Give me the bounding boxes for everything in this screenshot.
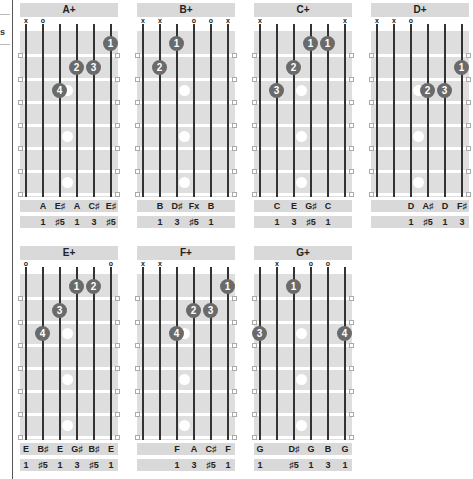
- note-name: C: [269, 200, 285, 212]
- fret-line: [254, 147, 352, 150]
- fret-edge-tick: [252, 435, 257, 440]
- fret-edge-tick: [135, 435, 140, 440]
- fret-edge-tick: [252, 53, 257, 58]
- note-name: B: [203, 200, 219, 212]
- fret-edge-tick: [18, 296, 23, 301]
- fret-inlay-dot: [296, 131, 307, 142]
- fret-edge-tick: [115, 435, 120, 440]
- fret-line: [137, 413, 235, 416]
- fret-edge-tick: [18, 77, 23, 82]
- fret-inlay-dot: [179, 177, 190, 188]
- fret-line: [371, 101, 469, 104]
- interval-label: 1: [303, 459, 319, 471]
- chord-title: E+: [20, 246, 118, 260]
- muted-string-marker: x: [340, 17, 350, 24]
- fret-edge-tick: [115, 100, 120, 105]
- chord-title: B+: [137, 3, 235, 17]
- finger-dot: 4: [52, 83, 67, 98]
- note-names-bar: AE♯AC♯E♯: [20, 200, 118, 212]
- interval-label: 1: [169, 459, 185, 471]
- fret-line: [254, 101, 352, 104]
- finger-dot: 4: [169, 326, 184, 341]
- finger-dot: 2: [286, 60, 301, 75]
- fret-line: [371, 124, 469, 127]
- fret-edge-tick: [349, 146, 354, 151]
- fret-edge-tick: [252, 366, 257, 371]
- string-3: [193, 267, 195, 440]
- fret-edge-tick: [135, 296, 140, 301]
- fret-edge-tick: [466, 146, 471, 151]
- fret-inlay-dot: [62, 177, 73, 188]
- interval-label: 3: [286, 216, 302, 228]
- interval-label: 1: [337, 459, 353, 471]
- note-name: B: [320, 443, 336, 455]
- fret-edge-tick: [349, 100, 354, 105]
- fret-edge-tick: [252, 320, 257, 325]
- fret-inlay-dot: [296, 328, 307, 339]
- note-name: D♯: [286, 443, 302, 455]
- muted-string-marker: x: [223, 17, 233, 24]
- fret-edge-tick: [18, 389, 23, 394]
- fret-inlay-dot: [296, 85, 307, 96]
- page-divider-line: [12, 0, 13, 479]
- note-name: F: [220, 443, 236, 455]
- note-name: G: [252, 443, 268, 455]
- interval-label: 1: [152, 216, 168, 228]
- fret-edge-tick: [115, 320, 120, 325]
- edge-text-fragment: s: [0, 27, 5, 37]
- finger-dot: 3: [437, 83, 452, 98]
- fret-line: [137, 170, 235, 173]
- fret-edge-tick: [466, 123, 471, 128]
- fret-edge-tick: [369, 100, 374, 105]
- fret-line: [20, 54, 118, 57]
- fret-line: [254, 413, 352, 416]
- chord-title: G+: [254, 246, 352, 260]
- string-6: [25, 24, 27, 197]
- fret-line: [20, 344, 118, 347]
- fret-inlay-dot: [296, 177, 307, 188]
- fret-inlay-dot: [413, 131, 424, 142]
- fret-line: [137, 147, 235, 150]
- fret-line: [20, 193, 118, 196]
- fret-edge-tick: [349, 192, 354, 197]
- fretboard: [20, 267, 118, 440]
- string-4: [59, 267, 61, 440]
- string-4: [59, 24, 61, 197]
- note-name: F: [169, 443, 185, 455]
- intervals-bar: 13♯51: [137, 216, 235, 228]
- fret-edge-tick: [135, 169, 140, 174]
- interval-label: 3: [169, 216, 185, 228]
- intervals-bar: 13♯51: [137, 459, 235, 471]
- fret-edge-tick: [115, 146, 120, 151]
- fret-edge-tick: [135, 77, 140, 82]
- fret-line: [20, 390, 118, 393]
- interval-label: ♯5: [303, 216, 319, 228]
- fretboard: [137, 267, 235, 440]
- open-string-marker: o: [21, 260, 31, 267]
- fret-edge-tick: [18, 366, 23, 371]
- fret-edge-tick: [369, 77, 374, 82]
- finger-dot: 3: [269, 83, 284, 98]
- fret-edge-tick: [232, 77, 237, 82]
- fret-line: [20, 78, 118, 81]
- fret-edge-tick: [18, 192, 23, 197]
- string-5: [393, 24, 395, 197]
- fret-line: [137, 436, 235, 439]
- string-6: [25, 267, 27, 440]
- fret-inlay-dot: [179, 420, 190, 431]
- fret-edge-tick: [232, 366, 237, 371]
- interval-label: ♯5: [286, 459, 302, 471]
- string-4: [410, 24, 412, 197]
- fret-edge-tick: [18, 435, 23, 440]
- note-name: Fx: [186, 200, 202, 212]
- nut: [371, 24, 469, 31]
- fret-line: [371, 147, 469, 150]
- note-names-bar: GD♯GBG: [254, 443, 352, 455]
- string-5: [42, 267, 44, 440]
- interval-label: 1: [18, 459, 34, 471]
- fret-edge-tick: [369, 192, 374, 197]
- fret-edge-tick: [232, 343, 237, 348]
- finger-dot: 1: [169, 36, 184, 51]
- fretboard: [254, 24, 352, 197]
- fret-edge-tick: [18, 123, 23, 128]
